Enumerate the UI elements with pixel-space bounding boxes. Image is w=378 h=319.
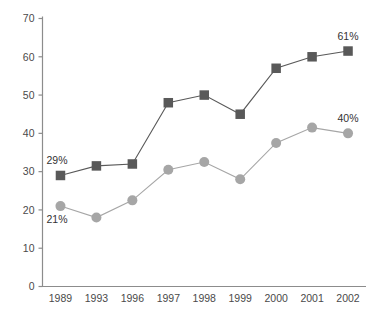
- line-chart: 0102030405060701989199319961997199819992…: [0, 0, 378, 319]
- data-point-square[interactable]: [200, 90, 210, 100]
- data-value-label: 29%: [46, 154, 67, 166]
- x-tick-label: 2000: [264, 292, 288, 304]
- x-tick-label: 1997: [157, 292, 181, 304]
- data-value-label: 21%: [46, 213, 67, 225]
- data-point-circle[interactable]: [199, 157, 209, 167]
- y-tick-label: 20: [23, 204, 35, 216]
- data-point-circle[interactable]: [235, 174, 245, 184]
- y-axis-ticks: 010203040506070: [23, 12, 43, 292]
- x-tick-label: 2001: [300, 292, 324, 304]
- data-point-square[interactable]: [92, 161, 102, 171]
- x-tick-label: 1993: [85, 292, 109, 304]
- x-tick-label: 2002: [336, 292, 360, 304]
- data-point-square[interactable]: [56, 171, 66, 181]
- data-point-circle[interactable]: [271, 138, 281, 148]
- data-value-label: 61%: [338, 30, 359, 42]
- y-tick-label: 70: [23, 12, 35, 24]
- data-point-square[interactable]: [128, 159, 138, 169]
- x-tick-label: 1996: [121, 292, 145, 304]
- data-point-circle[interactable]: [127, 195, 137, 205]
- axes-group: [43, 17, 367, 287]
- y-tick-label: 10: [23, 242, 35, 254]
- chart-container: 0102030405060701989199319961997199819992…: [0, 0, 378, 319]
- data-point-square[interactable]: [164, 98, 174, 108]
- data-point-circle[interactable]: [163, 165, 173, 175]
- data-point-square[interactable]: [307, 52, 317, 62]
- data-point-circle[interactable]: [307, 123, 317, 133]
- y-tick-label: 0: [29, 280, 35, 292]
- x-tick-label: 1989: [49, 292, 73, 304]
- x-tick-label: 1998: [193, 292, 217, 304]
- y-tick-label: 30: [23, 165, 35, 177]
- data-point-circle[interactable]: [343, 128, 353, 138]
- data-point-square[interactable]: [271, 64, 281, 73]
- data-value-label: 40%: [338, 112, 359, 124]
- x-tick-label: 1999: [229, 292, 253, 304]
- data-point-circle[interactable]: [91, 213, 101, 223]
- y-tick-label: 40: [23, 127, 35, 139]
- y-tick-label: 60: [23, 51, 35, 63]
- series-circle: [55, 123, 353, 223]
- data-point-circle[interactable]: [55, 201, 65, 211]
- axis-lines: [43, 17, 367, 287]
- series-line: [60, 128, 348, 218]
- x-axis-ticks: 198919931996199719981999200020012002: [49, 292, 360, 304]
- data-point-square[interactable]: [343, 46, 353, 56]
- data-point-square[interactable]: [235, 109, 245, 119]
- y-tick-label: 50: [23, 89, 35, 101]
- series-line: [60, 51, 348, 175]
